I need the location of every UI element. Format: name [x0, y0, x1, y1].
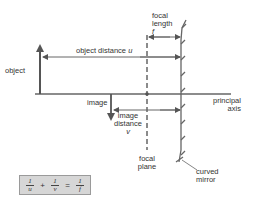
equals-sign: =: [65, 181, 70, 190]
image-distance-symbol: v: [114, 128, 142, 136]
principal-axis-label: principal axis: [213, 97, 241, 113]
focal-point: [145, 92, 149, 96]
focal-length-symbol: f: [152, 28, 172, 36]
object-distance-symbol: u: [128, 46, 132, 55]
curved-mirror: [176, 20, 186, 162]
object-distance-label: object distance u: [76, 47, 132, 55]
image-distance-label: image distance v: [114, 112, 142, 136]
image-label: image: [87, 99, 107, 107]
plus-sign: +: [40, 181, 45, 190]
fraction-1-over-f: 1 f: [76, 178, 84, 193]
focal-plane-label: focal plane: [138, 155, 156, 171]
object-label: object: [5, 67, 25, 75]
mirror-diagram: object object distance u focal length f …: [0, 0, 259, 204]
fraction-1-over-v: 1 v: [51, 178, 59, 193]
focal-length-label: focal length f: [152, 12, 172, 36]
fraction-1-over-u: 1 u: [26, 178, 34, 193]
mirror-equation-box: 1 u + 1 v = 1 f: [19, 175, 91, 195]
mirror-leader-line: [182, 160, 197, 170]
curved-mirror-label: curved mirror: [196, 168, 219, 184]
